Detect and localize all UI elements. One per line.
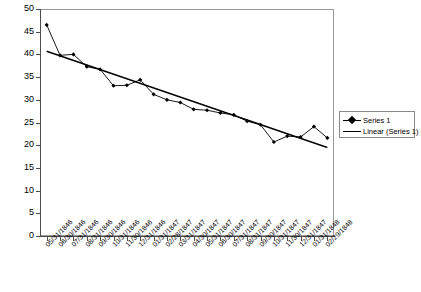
legend-label-linear-series-1: Linear (Series 1) — [361, 126, 418, 137]
trendline-line-icon — [343, 126, 361, 137]
series-1-line — [47, 25, 328, 142]
series-1-data-point — [178, 100, 182, 104]
y-tick-label: 30 — [16, 95, 34, 104]
y-tick-label: 10 — [16, 186, 34, 195]
y-tick-label: 20 — [16, 140, 34, 149]
y-tick-label: 40 — [16, 49, 34, 58]
series-plot-layer — [40, 9, 334, 236]
legend-item-linear-series-1[interactable]: Linear (Series 1) — [343, 126, 411, 137]
y-tick-label: 5 — [16, 208, 34, 217]
y-tick-label: 15 — [16, 163, 34, 172]
series-1-data-point — [165, 98, 169, 102]
linear-trendline — [47, 51, 328, 147]
series-1-data-point — [205, 108, 209, 112]
chart-legend: Series 1 Linear (Series 1) — [339, 111, 415, 138]
legend-item-series-1[interactable]: Series 1 — [343, 115, 411, 126]
y-tick-label: 0 — [16, 231, 34, 240]
y-tick-label: 50 — [16, 4, 34, 13]
chart-container: 05101520253035404550 05/31/184606/30/184… — [0, 0, 421, 292]
legend-label-series-1: Series 1 — [361, 115, 391, 126]
series-1-data-point — [45, 23, 49, 27]
y-tick — [36, 236, 40, 237]
y-tick-label: 45 — [16, 27, 34, 36]
series-1-line-marker-icon — [343, 115, 361, 126]
y-tick-label: 35 — [16, 72, 34, 81]
y-tick-label: 25 — [16, 118, 34, 127]
series-1-data-point — [125, 83, 129, 87]
series-1-data-point — [192, 107, 196, 111]
